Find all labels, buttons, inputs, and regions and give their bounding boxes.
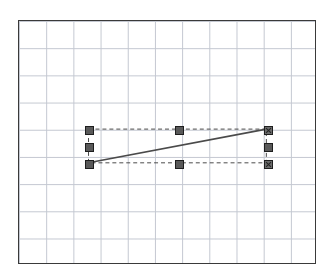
- handle-bottom-center[interactable]: [175, 160, 184, 169]
- app-root: [0, 0, 335, 274]
- handle-bottom-left[interactable]: [85, 160, 94, 169]
- handle-top-center[interactable]: [175, 126, 184, 135]
- handle-bottom-right[interactable]: [264, 160, 273, 169]
- handle-middle-right[interactable]: [264, 143, 273, 152]
- handle-top-right[interactable]: [264, 126, 273, 135]
- handle-middle-left[interactable]: [85, 143, 94, 152]
- handle-top-left[interactable]: [85, 126, 94, 135]
- drawing-canvas[interactable]: [18, 20, 316, 264]
